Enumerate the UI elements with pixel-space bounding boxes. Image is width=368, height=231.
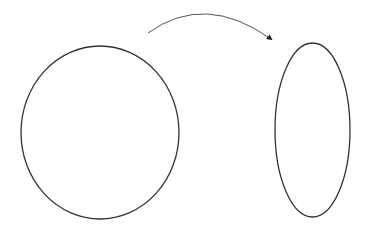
diagram-svg xyxy=(0,0,368,231)
curved-arrow-icon xyxy=(148,14,271,39)
diagram-canvas xyxy=(0,0,368,231)
source-ellipse xyxy=(21,46,179,219)
target-ellipse xyxy=(275,43,350,217)
